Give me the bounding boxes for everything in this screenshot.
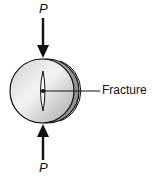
- diametral-compression-diagram: P P Fracture: [0, 0, 154, 180]
- load-arrow-top: [37, 18, 49, 58]
- load-label-bottom: P: [39, 161, 48, 174]
- load-label-top: P: [39, 2, 48, 15]
- fracture-label: Fracture: [102, 84, 147, 96]
- load-arrow-bottom: [37, 124, 49, 160]
